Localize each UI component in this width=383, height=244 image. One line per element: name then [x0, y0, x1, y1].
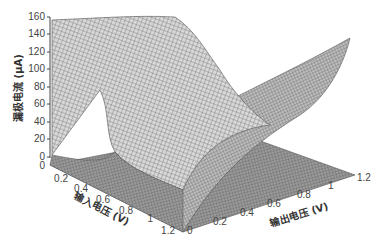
y-tick: 0.8 — [297, 189, 311, 200]
z-axis: 160 140 120 100 80 60 40 20 0 漏极电流 (µA) — [12, 11, 50, 162]
z-tick: 140 — [28, 28, 45, 39]
y-tick: 0.6 — [267, 198, 281, 209]
x-tick: 0 — [39, 160, 45, 171]
plot-canvas: 160 140 120 100 80 60 40 20 0 漏极电流 (µA) … — [0, 0, 383, 244]
z-tick: 120 — [28, 46, 45, 57]
x-tick: 1 — [147, 213, 153, 224]
z-tick: 20 — [34, 133, 46, 144]
surface-plot: 160 140 120 100 80 60 40 20 0 漏极电流 (µA) … — [0, 0, 383, 244]
y-tick: 0 — [187, 225, 193, 236]
y-tick: 1.2 — [357, 172, 371, 183]
z-tick: 160 — [28, 11, 45, 22]
z-tick: 60 — [34, 98, 46, 109]
z-tick: 100 — [28, 63, 45, 74]
y-tick: 0.4 — [240, 207, 254, 218]
z-tick: 80 — [34, 81, 46, 92]
z-tick: 40 — [34, 116, 46, 127]
x-tick: 0.2 — [54, 173, 68, 184]
y-tick: 1 — [328, 180, 334, 191]
y-tick: 0.2 — [213, 216, 227, 227]
x-tick: 1.2 — [161, 225, 175, 236]
z-axis-label: 漏极电流 (µA) — [12, 54, 24, 122]
